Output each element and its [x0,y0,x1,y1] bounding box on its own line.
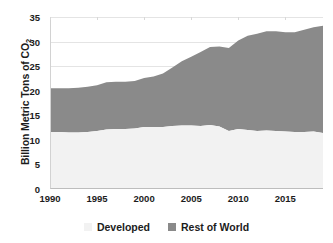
x-axis-tick-mark [144,17,145,20]
y-axis-tick-label: 30 [29,36,40,47]
y-axis-tick-label: 20 [29,85,40,96]
x-axis-tick-label: 2010 [228,193,249,204]
x-axis-tick-label: 2000 [134,193,155,204]
legend-swatch-icon [84,223,92,231]
x-axis-tick-mark [191,17,192,20]
plot-frame [50,17,323,189]
x-axis-tick-label: 2005 [181,193,202,204]
y-axis-tick-label: 15 [29,110,40,121]
chart-legend: DevelopedRest of World [0,221,333,233]
x-axis-tick-mark [97,17,98,20]
legend-item[interactable]: Developed [84,221,150,233]
x-axis-tick-label: 1990 [39,193,60,204]
y-axis-tick-labels: 05101520253035 [0,0,46,172]
plot-area: 199019952000200520102015 [50,17,323,189]
legend-label: Rest of World [181,221,249,233]
co2-emissions-area-chart: Billion Metric Tons of CO2 0510152025303… [0,0,333,243]
y-axis-tick-label: 35 [29,12,40,23]
legend-item[interactable]: Rest of World [168,221,249,233]
x-axis-tick-mark [238,17,239,20]
x-axis-tick-label: 2015 [275,193,296,204]
y-axis-tick-label: 5 [35,159,40,170]
x-axis-tick-mark [50,17,51,20]
y-axis-tick-label: 10 [29,134,40,145]
legend-label: Developed [97,221,150,233]
y-axis-tick-label: 25 [29,61,40,72]
x-axis-tick-mark [285,17,286,20]
legend-swatch-icon [168,223,176,231]
x-axis-tick-label: 1995 [86,193,107,204]
